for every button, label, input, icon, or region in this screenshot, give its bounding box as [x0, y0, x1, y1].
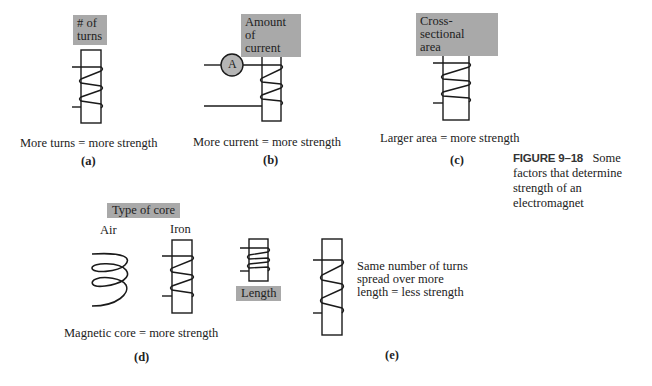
panel-label-a: (a)	[81, 154, 96, 169]
air-label: Air	[100, 223, 117, 238]
tag-line: area	[420, 41, 494, 54]
tag-type-of-core: Type of core	[107, 203, 180, 218]
caption-a: More turns = more strength	[20, 136, 158, 151]
tag-line: current	[245, 42, 297, 55]
tag-cross-sectional-area: Cross-sectional area	[416, 13, 498, 56]
length-note: Same number of turns spread over more le…	[357, 260, 468, 299]
panel-label-d: (d)	[134, 350, 149, 365]
ammeter-symbol: A	[228, 57, 237, 72]
long-coil-icon	[313, 239, 344, 335]
tag-line: Cross-sectional	[420, 15, 494, 41]
tag-length: Length	[236, 286, 281, 301]
caption-b: More current = more strength	[193, 135, 341, 150]
panel-label-e: (e)	[385, 348, 399, 363]
coil-c-icon	[433, 47, 471, 120]
panel-label-c: (c)	[450, 153, 464, 168]
caption-d: Magnetic core = more strength	[64, 326, 218, 341]
coil-b-icon	[204, 49, 283, 121]
panel-label-b: (b)	[263, 153, 278, 168]
tag-amount-of-current: Amount of current	[241, 14, 301, 57]
iron-label: Iron	[170, 222, 191, 237]
figure-number: FIGURE 9–18	[513, 152, 583, 164]
iron-coil-icon	[162, 240, 194, 313]
figure-caption: FIGURE 9–18 Some factors that determine …	[513, 151, 652, 211]
tag-line: Amount of	[245, 16, 297, 42]
air-coil-icon	[92, 254, 128, 306]
short-coil-icon	[240, 239, 270, 281]
tag-line: turns	[77, 30, 103, 43]
caption-c: Larger area = more strength	[380, 131, 519, 146]
tag-number-of-turns: # of turns	[73, 15, 107, 45]
note-line: length = less strength	[357, 286, 468, 299]
coil-a-icon	[72, 50, 103, 123]
